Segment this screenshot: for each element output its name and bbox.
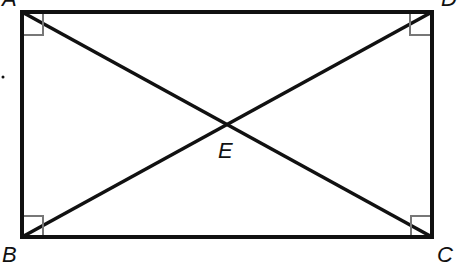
vertex-label-b: B <box>2 244 17 266</box>
intersection-label-e: E <box>218 140 233 162</box>
vertex-label-c: C <box>437 244 453 266</box>
vertex-label-a: A <box>2 0 17 10</box>
vertex-label-d: D <box>441 0 457 10</box>
stray-dot <box>2 76 5 79</box>
